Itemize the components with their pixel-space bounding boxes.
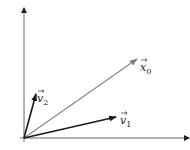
svg-text:x0: x0: [140, 61, 151, 76]
svg-text:v1: v1: [120, 114, 131, 129]
label-x0: x0: [140, 59, 151, 77]
vector-diagram: x0 v1 v2: [0, 0, 190, 150]
vector-v1-arrow: [24, 117, 116, 138]
svg-text:v2: v2: [37, 92, 48, 107]
label-v1: v1: [120, 112, 131, 130]
label-v2: v2: [37, 90, 48, 108]
